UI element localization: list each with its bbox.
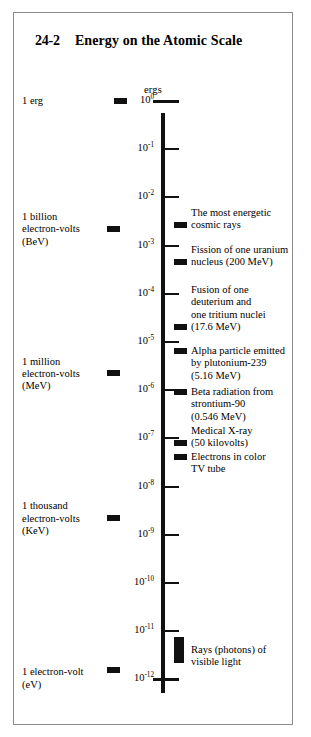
left-scale-label-line: (BeV) [22,236,80,248]
exponent-label-10neg1: 10-1 [110,142,154,153]
axis-tick-10neg9 [165,534,179,536]
annotation-marker [174,389,187,395]
exponent-label-10neg4: 10-4 [110,287,154,298]
annotation-marker [174,454,187,460]
left-scale-label-line: 1 million [22,356,80,368]
left-scale-marker [114,98,127,104]
left-scale-marker [107,667,120,673]
annotation-text-line: one tritium nuclei [191,309,266,321]
exponent-label-10neg11: 10-11 [110,624,154,635]
left-scale-label: 1 electron-volt(eV) [22,666,84,691]
left-scale-label-line: 1 erg [22,95,43,107]
figure-frame: 24-2 Energy on the Atomic Scale ergs 100… [13,12,293,725]
axis-tick-10neg4 [165,293,179,295]
annotation-text-line: Electrons in color [191,451,266,463]
section-number: 24-2 [35,33,60,49]
annotation-text: Rays (photons) ofvisible light [191,644,266,669]
annotation-text-line: (0.546 MeV) [191,411,273,423]
axis-tick-10neg11 [165,630,179,632]
logarithmic-axis-line [161,113,165,693]
left-scale-label-line: (eV) [22,679,84,691]
annotation-text-line: Fusion of one [191,284,266,296]
exponent-label-10neg6: 10-6 [110,383,154,394]
exponent-label-10neg10: 10-10 [110,576,154,587]
annotation-text-line: nucleus (200 MeV) [191,256,288,268]
axis-tick-10neg1 [165,148,179,150]
annotation-text: The most energeticcosmic rays [191,207,271,232]
exponent-label-10neg7: 10-7 [110,431,154,442]
left-scale-label-line: electron-volts [22,223,80,235]
annotation-text: Medical X-ray(50 kilovolts) [191,425,253,450]
left-scale-label-line: electron-volts [22,513,80,525]
annotation-text: Electrons in colorTV tube [191,451,266,476]
axis-tick-10neg3 [165,245,179,247]
annotation-text-line: strontium-90 [191,398,273,410]
annotation-text-line: (5.16 MeV) [191,370,285,382]
annotation-text: Fusion of onedeuterium andone tritium nu… [191,284,266,334]
annotation-text-line: deuterium and [191,296,266,308]
left-scale-label: 1 erg [22,95,43,107]
annotation-text-line: Fission of one uranium [191,244,288,256]
annotation-marker [174,222,187,228]
annotation-text-line: Beta radiation from [191,386,273,398]
left-scale-marker [107,226,120,232]
exponent-label-10neg8: 10-8 [110,480,154,491]
annotation-text-line: (17.6 MeV) [191,321,266,333]
annotation-marker [174,324,187,330]
annotation-text-line: (50 kilovolts) [191,437,253,449]
annotation-text: Fission of one uraniumnucleus (200 MeV) [191,244,288,269]
left-scale-marker [107,515,120,521]
annotation-marker [174,259,187,265]
left-scale-label-line: electron-volts [22,368,80,380]
annotation-marker [174,348,187,354]
exponent-label-10neg2: 10-2 [110,190,154,201]
axis-tick-10neg7 [165,437,179,439]
annotation-text: Beta radiation fromstrontium-90(0.546 Me… [191,386,273,423]
exponent-label-10neg3: 10-3 [110,239,154,250]
left-scale-marker [107,370,120,376]
exponent-label-10neg12: 10-12 [110,672,154,683]
annotation-text-line: by plutonium-239 [191,357,285,369]
annotation-text-line: The most energetic [191,207,271,219]
left-scale-label: 1 millionelectron-volts(MeV) [22,356,80,393]
exponent-label-10neg9: 10-9 [110,528,154,539]
left-scale-label-line: 1 thousand [22,500,80,512]
axis-tick-10neg10 [165,582,179,584]
annotation-range-marker [174,637,184,663]
left-scale-label-line: 1 electron-volt [22,666,84,678]
figure-header: 24-2 Energy on the Atomic Scale [35,33,242,49]
axis-tick-10neg8 [165,486,179,488]
annotation-text-line: Alpha particle emitted [191,345,285,357]
left-scale-label: 1 thousandelectron-volts(KeV) [22,500,80,537]
left-scale-label-line: (MeV) [22,380,80,392]
exponent-label-10neg5: 10-5 [110,335,154,346]
axis-tick-10neg2 [165,196,179,198]
left-scale-label: 1 billionelectron-volts(BeV) [22,211,80,248]
page-title: Energy on the Atomic Scale [75,33,242,49]
axis-tick-100 [153,100,179,103]
annotation-marker [174,440,187,446]
axis-tick-10neg5 [165,341,179,343]
left-scale-label-line: 1 billion [22,211,80,223]
annotation-text-line: TV tube [191,463,266,475]
left-scale-label-line: (KeV) [22,525,80,537]
annotation-text-line: cosmic rays [191,219,271,231]
annotation-text-line: Rays (photons) of [191,644,266,656]
annotation-text-line: Medical X-ray [191,425,253,437]
axis-tick-10neg12 [153,678,179,681]
annotation-text: Alpha particle emittedby plutonium-239(5… [191,345,285,382]
annotation-text-line: visible light [191,656,266,668]
